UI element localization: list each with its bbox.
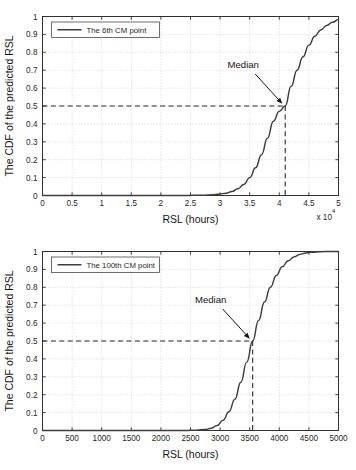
axis-ticks: 0500100015002000250030003500400045005000…: [26, 248, 348, 443]
x-tick-label: 1: [99, 199, 104, 208]
median-annotation-label: Median: [227, 59, 258, 70]
x-axis-title: RSL (hours): [162, 213, 218, 225]
x-axis-exponent-label: x 104: [317, 208, 336, 221]
legend-label: The 100th CM point: [87, 261, 156, 270]
x-tick-label: 1.5: [126, 199, 138, 208]
y-tick-label: 1: [33, 13, 38, 22]
y-tick-label: 0.7: [26, 301, 38, 310]
y-tick-label: 0.3: [26, 373, 38, 382]
y-tick-label: 0.9: [26, 265, 38, 274]
x-tick-label: 4: [277, 199, 282, 208]
x-tick-label: 4000: [270, 434, 289, 443]
x-tick-label: 3.5: [244, 199, 256, 208]
y-tick-label: 0.5: [26, 102, 38, 111]
x-tick-label: 2: [159, 199, 164, 208]
x-tick-label: 3500: [241, 434, 260, 443]
y-tick-label: 0.3: [26, 138, 38, 147]
figure-top-cdf-6th-cm-point: 00.511.522.533.544.5500.10.20.30.40.50.6…: [0, 0, 356, 235]
y-tick-label: 0.1: [26, 409, 38, 418]
x-tick-label: 5: [336, 199, 341, 208]
y-tick-label: 0.6: [26, 84, 38, 93]
y-tick-label: 0.8: [26, 283, 38, 292]
figure-bottom-cdf-100th-cm-point: 0500100015002000250030003500400045005000…: [0, 235, 356, 470]
y-tick-label: 0.2: [26, 156, 38, 165]
x-tick-label: 0: [40, 434, 45, 443]
y-tick-label: 0.5: [26, 337, 38, 346]
x-tick-label: 500: [65, 434, 79, 443]
x-axis-title: RSL (hours): [162, 448, 218, 460]
x-tick-label: 3: [218, 199, 223, 208]
y-tick-label: 0: [33, 427, 38, 436]
x-tick-label: 5000: [329, 434, 348, 443]
x-tick-label: 4.5: [303, 199, 315, 208]
y-tick-label: 0.4: [26, 120, 38, 129]
y-tick-label: 0: [33, 192, 38, 201]
y-tick-label: 0.1: [26, 174, 38, 183]
x-tick-label: 3000: [211, 434, 230, 443]
median-annotation-label: Median: [195, 294, 226, 305]
y-tick-label: 0.9: [26, 30, 38, 39]
y-tick-label: 0.4: [26, 355, 38, 364]
y-axis-title: The CDF of the predicted RSL: [3, 270, 15, 411]
x-tick-label: 0.5: [66, 199, 78, 208]
legend-label: The 6th CM point: [87, 26, 148, 35]
y-tick-label: 0.7: [26, 66, 38, 75]
y-tick-label: 0.2: [26, 391, 38, 400]
cdf-curve: [43, 20, 339, 196]
x-tick-label: 2.5: [185, 199, 197, 208]
y-tick-label: 1: [33, 248, 38, 257]
y-axis-title: The CDF of the predicted RSL: [3, 35, 15, 176]
x-tick-label: 4500: [300, 434, 319, 443]
y-tick-label: 0.6: [26, 319, 38, 328]
x-tick-label: 2000: [152, 434, 171, 443]
x-tick-label: 1000: [93, 434, 112, 443]
y-tick-label: 0.8: [26, 48, 38, 57]
x-tick-label: 0: [40, 199, 45, 208]
x-tick-label: 2500: [181, 434, 200, 443]
x-tick-label: 1500: [122, 434, 141, 443]
axis-ticks: 00.511.522.533.544.5500.10.20.30.40.50.6…: [26, 13, 341, 208]
